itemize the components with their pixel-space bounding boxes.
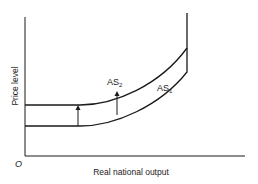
as1-label: AS1	[157, 83, 173, 94]
shift-arrow-curved	[115, 91, 120, 115]
origin-label: O	[15, 159, 22, 169]
y-axis-label: Price level	[10, 66, 20, 105]
x-axis-label: Real national output	[93, 167, 169, 177]
as2-label: AS2	[107, 77, 123, 88]
aggregate-supply-diagram: AS2 AS1 Price level Real national output…	[0, 0, 258, 184]
shift-arrow-flat	[76, 105, 81, 126]
